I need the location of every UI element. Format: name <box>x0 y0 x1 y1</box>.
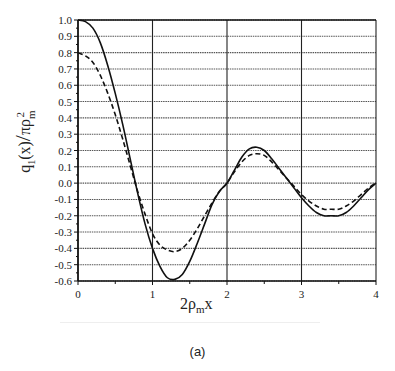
x-axis-ticks: 01234 <box>75 281 379 300</box>
x-axis-label: 2ρmx <box>180 295 213 315</box>
y-tick-label: 0.4 <box>58 112 72 124</box>
grid-lines <box>78 20 376 281</box>
y-tick-label: 0.6 <box>58 79 72 91</box>
y-axis-ticks: 1.00.90.80.70.60.50.40.30.20.10.0-0.1-0.… <box>55 14 78 287</box>
ylabel-pi-rho: πρ <box>16 119 33 135</box>
ylabel-slash: / <box>10 135 35 141</box>
y-tick-label: -0.1 <box>55 193 72 205</box>
y-tick-label: 0.9 <box>58 30 72 42</box>
xlabel-main: 2ρ <box>180 295 196 312</box>
x-tick-label: 1 <box>150 288 156 300</box>
y-tick-label: 0.0 <box>58 177 72 189</box>
x-tick-label: 3 <box>299 288 305 300</box>
y-tick-label: -0.6 <box>55 275 73 287</box>
ylabel-q: q <box>16 165 33 173</box>
y-tick-label: 0.8 <box>58 47 72 59</box>
line-chart: 1.00.90.80.70.60.50.40.30.20.10.0-0.1-0.… <box>0 0 395 371</box>
x-tick-label: 4 <box>373 288 379 300</box>
y-tick-label: -0.4 <box>55 242 73 254</box>
y-axis-label: q1(x)/πρ2m <box>10 72 37 212</box>
y-tick-label: 0.7 <box>58 63 72 75</box>
xlabel-tail: x <box>205 295 213 312</box>
y-tick-label: -0.3 <box>55 226 73 238</box>
y-tick-label: -0.2 <box>55 210 72 222</box>
ylabel-arg: (x) <box>16 141 33 160</box>
xlabel-sub: m <box>196 303 205 315</box>
y-tick-label: 0.3 <box>58 128 72 140</box>
x-tick-label: 2 <box>224 288 230 300</box>
y-tick-label: -0.5 <box>55 259 73 271</box>
figure-caption: (a) <box>0 344 395 359</box>
ylabel-q-sub: 1 <box>26 160 37 165</box>
x-tick-label: 0 <box>75 288 81 300</box>
divider <box>60 322 320 323</box>
y-tick-label: 1.0 <box>58 14 72 26</box>
y-tick-label: 0.1 <box>58 161 72 173</box>
y-tick-label: 0.2 <box>58 145 72 157</box>
y-tick-label: 0.5 <box>58 96 72 108</box>
ylabel-sub: m <box>27 110 38 119</box>
